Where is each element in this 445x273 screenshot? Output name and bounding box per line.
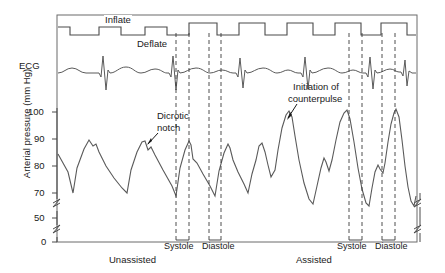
y-tick-label-0: 0 — [41, 237, 46, 247]
plot-frame — [57, 15, 417, 242]
phase-dashed-lines — [176, 33, 395, 236]
counterpulse-label-line1: Initiation of — [293, 82, 339, 92]
phase-brackets — [176, 236, 395, 240]
waveform-chart-svg — [0, 0, 445, 273]
y-axis-title: Arterial pressure (mm Hg) — [21, 64, 32, 184]
assisted-diastole-label: Diastole — [375, 242, 408, 251]
figure-root: Arterial pressure (mm Hg) 100 90 80 70 5… — [0, 0, 445, 273]
deflate-label: Deflate — [136, 39, 168, 49]
assisted-systole-label: Systole — [337, 242, 367, 251]
y-tick-label-80: 80 — [34, 161, 45, 171]
y-tick-label-50: 50 — [34, 213, 45, 223]
y-tick-label-100: 100 — [28, 107, 44, 117]
unassisted-diastole-label: Diastole — [202, 242, 235, 251]
y-tick-label-70: 70 — [34, 188, 45, 198]
y-tick-label-90: 90 — [34, 134, 45, 144]
dicrotic-notch-label-line2: notch — [157, 123, 180, 133]
y-axis-ticks — [52, 112, 57, 242]
ecg-label: ECG — [19, 61, 40, 71]
region-label-unassisted: Unassisted — [109, 255, 156, 265]
arterial-pressure-trace — [58, 109, 416, 206]
dicrotic-notch-label-line1: Dicrotic — [157, 111, 189, 121]
counterpulse-label-line2: counterpulse — [288, 94, 342, 104]
inflate-label: Inflate — [104, 15, 132, 25]
unassisted-systole-label: Systole — [164, 242, 194, 251]
region-label-assisted: Assisted — [296, 255, 332, 265]
